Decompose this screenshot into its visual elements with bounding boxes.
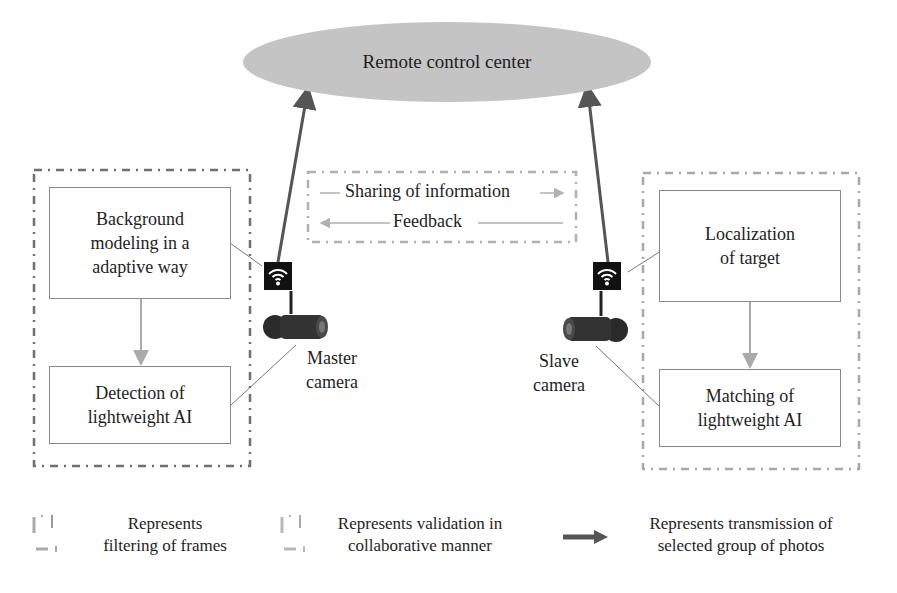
master-upload-arrow [278,94,307,262]
background-modeling-box: Background modeling in a adaptive way [49,187,231,299]
legend-transmission-text: Represents transmission of selected grou… [612,513,870,557]
feedback-label: Feedback [393,211,462,232]
camera-icon [263,315,328,339]
slave-upload-arrow [588,92,608,262]
camera-icon [563,317,628,342]
wifi-icon [264,262,292,290]
matching-label: Matching of lightweight AI [698,384,803,432]
remote-control-center-label: Remote control center [363,51,532,73]
sharing-of-information-label: Sharing of information [345,181,510,202]
legend-filtering-text: Represents filtering of frames [70,513,260,557]
detection-box: Detection of lightweight AI [49,366,231,444]
legend-icon-transmission-arrow [563,530,608,544]
master-camera-label: Master camera [292,346,372,394]
legend-icon-filtering [34,515,56,552]
detection-label: Detection of lightweight AI [88,381,193,429]
slave-camera-label: Slave camera [523,349,595,397]
remote-control-center: Remote control center [243,22,651,102]
matching-box: Matching of lightweight AI [659,369,841,447]
localization-label: Localization of target [705,222,795,270]
wifi-icon [593,262,621,290]
background-modeling-label: Background modeling in a adaptive way [91,207,190,279]
localization-box: Localization of target [659,190,841,302]
legend-validation-text: Represents validation in collaborative m… [300,513,540,557]
